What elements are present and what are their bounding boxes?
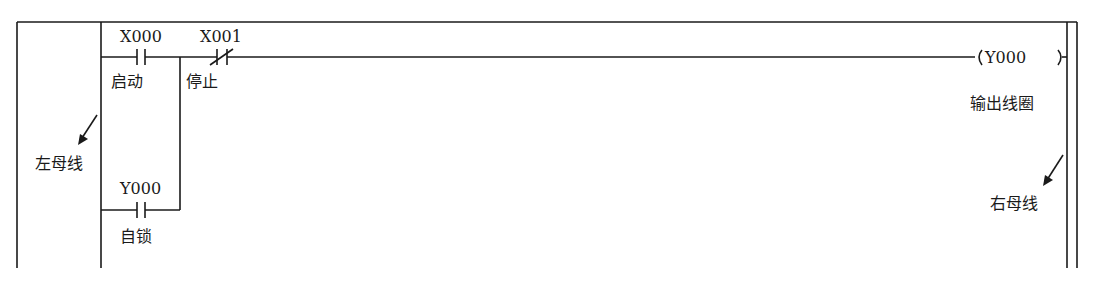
contact-x001-caption: 停止: [186, 73, 218, 91]
contact-x001-label: X001: [200, 28, 242, 46]
coil-label: Y000: [985, 49, 1026, 67]
contact-x000-label: X000: [120, 28, 162, 46]
contact-x000-caption: 启动: [111, 73, 143, 91]
coil-left-paren: [979, 50, 982, 65]
right-bus-arrow: [1047, 155, 1063, 180]
coil-right-paren: [1058, 50, 1061, 65]
coil-caption: 输出线圈: [970, 95, 1034, 113]
left-bus-arrow: [82, 115, 97, 138]
ladder-diagram: [0, 0, 1093, 285]
right-bus-label: 右母线: [990, 195, 1038, 213]
left-bus-label: 左母线: [35, 155, 83, 173]
arrow-head-icon: [1043, 175, 1053, 186]
contact-y000-caption: 自锁: [120, 228, 152, 246]
contact-y000-label: Y000: [120, 180, 161, 198]
